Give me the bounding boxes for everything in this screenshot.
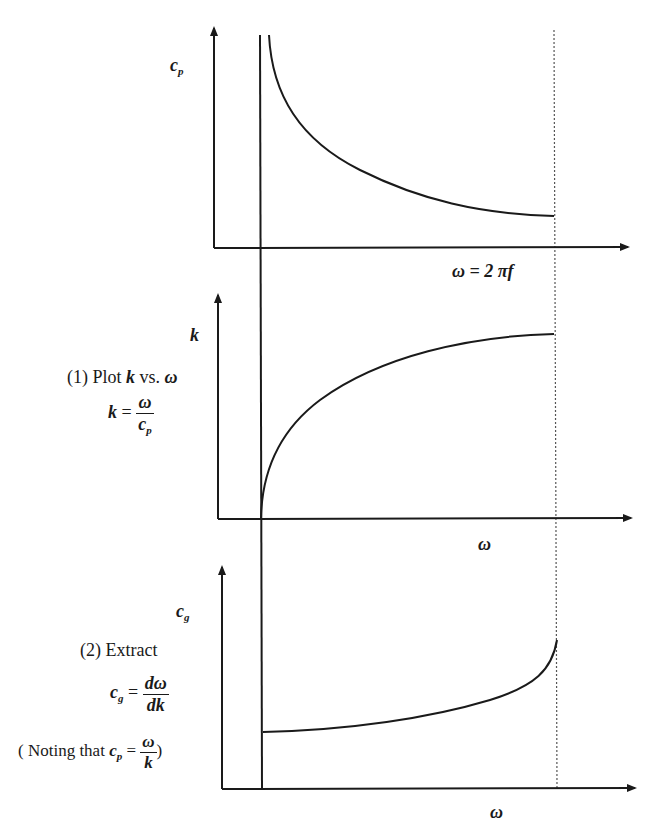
cp-axis-label: cp: [170, 56, 184, 77]
plot-k-vs-omega-annotation: (1) Plot k vs. ω: [67, 368, 178, 386]
omega-2pif-axis-label: ω = 2 πf: [452, 262, 514, 280]
cg-curve: [263, 640, 557, 732]
omega-axis-label-3: ω: [490, 803, 503, 821]
extract-annotation: (2) Extract: [80, 641, 157, 659]
k-formula: k = ωcp: [108, 392, 154, 436]
cutoff-frequency-line: [260, 35, 262, 789]
omega-axis-label-2: ω: [478, 535, 491, 553]
panel-cp-axes: [214, 28, 628, 248]
cp-curve: [269, 35, 554, 216]
panel-cg-axes: [222, 567, 635, 789]
diagram-canvas: [0, 0, 667, 839]
cg-formula: cg = dωdk: [110, 673, 169, 715]
panel-k-axes: [218, 295, 631, 519]
k-curve: [261, 334, 554, 518]
k-axis-label: k: [190, 326, 199, 344]
limit-frequency-dotted-line: [554, 30, 557, 789]
cg-axis-label: cg: [176, 602, 190, 623]
noting-annotation: ( Noting that cp = ωk): [18, 732, 162, 772]
